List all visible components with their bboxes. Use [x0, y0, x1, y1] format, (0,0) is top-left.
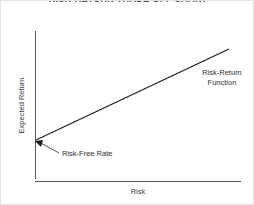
risk-free-rate-leader [39, 142, 59, 153]
series-annotation-line2: Function [191, 78, 253, 88]
series-annotation-line1: Risk-Return [191, 68, 253, 78]
risk-return-line [36, 49, 229, 140]
risk-free-rate-arrowhead [35, 140, 43, 147]
risk-free-rate-label: Risk-Free Rate [62, 149, 112, 158]
plot-overlay [1, 1, 254, 205]
series-annotation: Risk-Return Function [191, 68, 253, 88]
risk-return-chart-figure: RISK-RETURN TRADE-OFF CHART Expected Ret… [0, 0, 254, 205]
